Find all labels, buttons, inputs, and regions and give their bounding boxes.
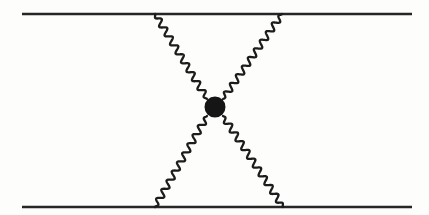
lower-left-boson-line <box>155 116 207 207</box>
lower-right-boson-line <box>223 116 283 207</box>
upper-left-boson-line <box>155 14 207 99</box>
diagram-canvas <box>0 0 429 215</box>
interaction-vertex-blob <box>205 97 226 118</box>
upper-right-boson-line <box>223 14 282 99</box>
feynman-diagram-figure <box>0 0 429 215</box>
